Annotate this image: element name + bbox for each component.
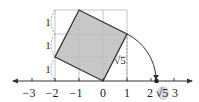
- number-line: [12, 78, 193, 84]
- tick-labels: −3 −2 −1 0 1 2 3: [23, 86, 178, 100]
- diagram-canvas: −3 −2 −1 0 1 2 3 √5 1 1 1 √5: [0, 0, 199, 102]
- diagonal-label: √5: [114, 54, 126, 66]
- point-label: √5: [156, 86, 169, 100]
- axis-arrow-right: [187, 79, 193, 84]
- tick-label: 1: [124, 86, 130, 100]
- tick-label: −1: [70, 86, 83, 100]
- tick-label: −2: [46, 86, 59, 100]
- tick-label: 0: [100, 86, 106, 100]
- unit-braces: [51, 10, 55, 81]
- compass-arc: [127, 34, 156, 78]
- tick-label: 3: [172, 86, 178, 100]
- tick-label: −3: [23, 86, 36, 100]
- square: [55, 10, 127, 81]
- side-label: 1: [45, 63, 51, 75]
- sqrt5-point: [154, 79, 159, 84]
- side-labels: 1 1 1: [45, 16, 51, 75]
- tick-label: 2: [147, 86, 153, 100]
- axis-arrow-left: [12, 79, 18, 84]
- side-label: 1: [45, 16, 51, 28]
- side-label: 1: [45, 39, 51, 51]
